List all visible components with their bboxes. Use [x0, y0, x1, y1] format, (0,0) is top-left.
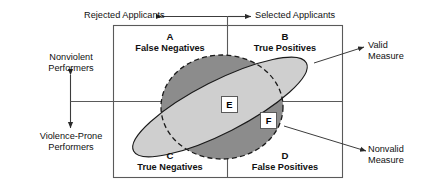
- violence-prone-line-1: Violence-Prone: [12, 131, 130, 142]
- quadrant-letter-c: C: [140, 150, 200, 161]
- nonvalid-measure-line-1: Nonvalid: [368, 144, 427, 155]
- quadrant-label-b: True Positives: [244, 43, 326, 54]
- quadrant-letter-d: D: [255, 150, 315, 161]
- marker-box-e: E: [221, 96, 238, 113]
- quadrant-letter-a: A: [140, 31, 200, 42]
- nonvalid-measure-leader: [284, 126, 366, 151]
- diagram-graphics: [0, 0, 427, 192]
- marker-box-f: F: [260, 112, 277, 129]
- quadrant-label-a: False Negatives: [128, 43, 212, 54]
- quadrant-label-d: False Positives: [243, 162, 327, 173]
- nonvalid-measure-line-2: Measure: [368, 155, 427, 166]
- axis-label-rejected-applicants: Rejected Applicants: [84, 10, 160, 21]
- valid-measure-line-1: Valid: [368, 40, 424, 51]
- axis-label-selected-applicants: Selected Applicants: [255, 10, 333, 21]
- nonviolent-line-2: Performers: [20, 63, 122, 74]
- violence-prone-line-2: Performers: [12, 142, 130, 153]
- diagram-canvas: Rejected Applicants Selected Applicants …: [0, 0, 427, 192]
- quadrant-letter-b: B: [255, 31, 315, 42]
- callout-valid-measure: Valid Measure: [368, 40, 424, 62]
- callout-nonvalid-measure: Nonvalid Measure: [368, 144, 427, 166]
- axis-label-violence-prone-performers: Violence-Prone Performers: [12, 131, 130, 153]
- valid-measure-line-2: Measure: [368, 51, 424, 62]
- quadrant-label-c: True Negatives: [128, 162, 212, 173]
- axis-label-nonviolent-performers: Nonviolent Performers: [20, 52, 122, 74]
- nonviolent-line-1: Nonviolent: [20, 52, 122, 63]
